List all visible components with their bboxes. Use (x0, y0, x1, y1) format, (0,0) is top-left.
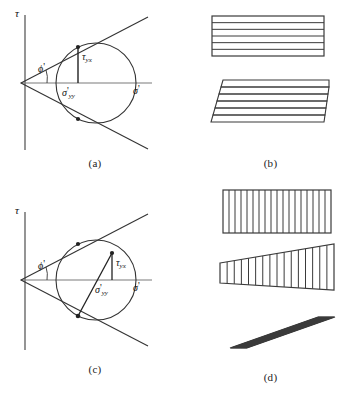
phi-angle-arc (46, 267, 47, 280)
lower-tangent-point (76, 117, 80, 121)
panel-a-caption: (a) (0, 157, 190, 169)
panel-c-tau-yx-label: τyx (116, 258, 126, 270)
slip-layer (215, 101, 327, 108)
undeformed-columnar-block (223, 190, 331, 233)
slip-layer (217, 94, 328, 101)
panel-a-phi-angle-label: ϕ' (38, 62, 45, 74)
panel-a-sigma-yy-label: σ'yy (62, 86, 75, 100)
panel-c-phi-angle-label: ϕ' (38, 259, 45, 271)
panel-c-mohr-diagram: τ ϕ' τyx σ'yy σ' (c) (0, 180, 190, 395)
panel-b-caption: (b) (190, 157, 351, 169)
panel-d-caption: (d) (190, 371, 351, 383)
panel-a-tau-axis-label: τ (15, 8, 19, 19)
column-lines (227, 245, 327, 289)
column-line (246, 317, 334, 348)
panel-a-svg (0, 0, 190, 160)
slipped-layered-block (211, 80, 329, 122)
panel-c-tau-axis-label: τ (15, 205, 19, 216)
slip-layer (221, 80, 329, 87)
panel-d-svg (190, 180, 351, 370)
figure-container: τ ϕ' τyx σ'yy σ' (a) (0, 0, 351, 395)
panel-a-tau-yx-label: τyx (82, 52, 92, 64)
panel-b-svg (190, 0, 351, 150)
sheared-block-slats (231, 317, 334, 348)
upper-tangent-point (76, 45, 80, 49)
panel-a-mohr-diagram: τ ϕ' τyx σ'yy σ' (a) (0, 0, 190, 180)
panel-c-svg (0, 180, 190, 365)
panel-d-columnar-blocks: (d) (190, 180, 351, 395)
failure-envelope-lower (21, 280, 148, 346)
tapered-columnar-block (220, 244, 334, 290)
upper-tangent-point (76, 242, 80, 246)
failure-envelope-lower (21, 83, 148, 149)
panel-b-layered-blocks: (b) (190, 0, 351, 180)
slip-layer (219, 87, 329, 94)
undeformed-layered-block (212, 16, 324, 56)
lower-tangent-point (76, 314, 81, 319)
panel-a-sigma-axis-label: σ' (133, 84, 140, 96)
panel-c-sigma-axis-label: σ' (133, 281, 140, 293)
phi-angle-arc (46, 70, 47, 83)
stress-point-marker (110, 251, 114, 255)
column-lines (229, 190, 325, 233)
panel-c-sigma-yy-label: σ'yy (95, 283, 108, 297)
slip-layer (213, 108, 326, 115)
slip-layer (211, 115, 325, 122)
panel-c-caption: (c) (0, 363, 190, 375)
